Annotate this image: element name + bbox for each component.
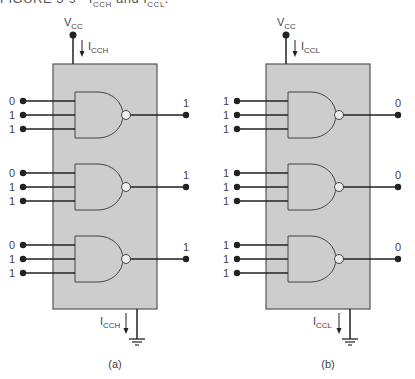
top-current-label: ICCL — [301, 40, 321, 55]
input-terminal-dot — [234, 270, 240, 276]
input-value: 1 — [9, 181, 15, 193]
input-terminal-dot — [234, 256, 240, 262]
arrowhead-icon — [293, 51, 298, 57]
inversion-bubble — [335, 183, 344, 192]
input-terminal-dot — [234, 198, 240, 204]
output-value: 1 — [183, 241, 189, 253]
bottom-current-label: ICCL — [313, 315, 333, 330]
output-value: 1 — [183, 169, 189, 181]
nand-gate-body — [288, 236, 336, 282]
panel-label: (a) — [108, 358, 121, 370]
input-terminal-dot — [20, 126, 26, 132]
nand-gate-body — [75, 164, 123, 210]
input-terminal-dot — [20, 112, 26, 118]
input-terminal-dot — [20, 170, 26, 176]
input-value: 1 — [223, 167, 229, 179]
panel-a: VCCICCH011101110111ICCH(a) — [9, 16, 189, 370]
nand-gate-3: 1110 — [223, 236, 401, 282]
input-value: 0 — [9, 95, 15, 107]
vcc-terminal-dot — [70, 32, 77, 39]
arrowhead-icon — [337, 328, 342, 334]
input-value: 0 — [9, 167, 15, 179]
nand-gate-body — [288, 92, 336, 138]
nand-gate-2: 1110 — [223, 164, 401, 210]
output-terminal-dot — [183, 184, 189, 190]
nand-gate-body — [75, 92, 123, 138]
output-terminal-dot — [183, 112, 189, 118]
input-terminal-dot — [20, 184, 26, 190]
output-terminal-dot — [395, 256, 401, 262]
nand-gate-body — [75, 236, 123, 282]
top-current-label: ICCH — [88, 40, 109, 55]
arrowhead-icon — [124, 328, 129, 334]
input-terminal-dot — [20, 98, 26, 104]
inversion-bubble — [122, 183, 131, 192]
input-terminal-dot — [20, 270, 26, 276]
input-terminal-dot — [234, 170, 240, 176]
input-value: 1 — [223, 95, 229, 107]
input-terminal-dot — [234, 126, 240, 132]
output-value: 0 — [395, 241, 401, 253]
bottom-current-label: ICCH — [100, 315, 121, 330]
input-value: 1 — [223, 267, 229, 279]
vcc-label: VCC — [64, 16, 83, 31]
nand-gate-1: 0111 — [9, 92, 189, 138]
input-terminal-dot — [234, 112, 240, 118]
inversion-bubble — [335, 111, 344, 120]
input-value: 0 — [9, 239, 15, 251]
panel-b: VCCICCL111011101110ICCL(b) — [223, 16, 401, 370]
inversion-bubble — [335, 255, 344, 264]
input-terminal-dot — [20, 256, 26, 262]
input-value: 1 — [223, 195, 229, 207]
inversion-bubble — [122, 111, 131, 120]
output-terminal-dot — [183, 256, 189, 262]
input-terminal-dot — [20, 198, 26, 204]
panel-label: (b) — [321, 358, 334, 370]
input-value: 1 — [9, 123, 15, 135]
input-value: 1 — [9, 109, 15, 121]
input-value: 1 — [223, 123, 229, 135]
nand-gate-1: 1110 — [223, 92, 401, 138]
output-terminal-dot — [395, 184, 401, 190]
inversion-bubble — [122, 255, 131, 264]
input-value: 1 — [9, 195, 15, 207]
input-value: 1 — [223, 253, 229, 265]
input-terminal-dot — [234, 242, 240, 248]
nand-icc-diagram: VCCICCH011101110111ICCH(a)VCCICCL1110111… — [0, 0, 415, 379]
input-value: 1 — [223, 239, 229, 251]
vcc-terminal-dot — [283, 32, 290, 39]
nand-gate-3: 0111 — [9, 236, 189, 282]
vcc-label: VCC — [277, 16, 296, 31]
input-terminal-dot — [234, 98, 240, 104]
input-value: 1 — [9, 253, 15, 265]
nand-gate-body — [288, 164, 336, 210]
input-value: 1 — [223, 109, 229, 121]
input-terminal-dot — [20, 242, 26, 248]
output-value: 1 — [183, 97, 189, 109]
arrowhead-icon — [80, 51, 85, 57]
input-value: 1 — [223, 181, 229, 193]
input-terminal-dot — [234, 184, 240, 190]
output-terminal-dot — [395, 112, 401, 118]
output-value: 0 — [395, 97, 401, 109]
input-value: 1 — [9, 267, 15, 279]
nand-gate-2: 0111 — [9, 164, 189, 210]
output-value: 0 — [395, 169, 401, 181]
